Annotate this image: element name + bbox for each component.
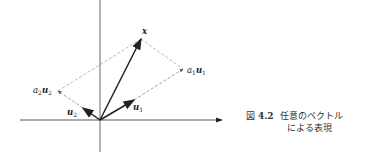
label-a2u2: a2u2 (33, 86, 52, 96)
caption-prefix: 図 (246, 111, 255, 121)
figure-caption: 図 4.2任意のベクトル による表現 (246, 110, 343, 134)
dashed-x-to-a1u1 (141, 39, 183, 69)
label-u1: u1 (133, 103, 143, 113)
label-x: x (142, 27, 147, 36)
label-a1u1: a1u1 (187, 66, 206, 76)
caption-line2: による表現 (246, 122, 343, 134)
label-u2: u2 (67, 108, 77, 118)
dashed-a1u1 (134, 69, 183, 100)
caption-line1: 任意のベクトル (280, 111, 343, 121)
dashed-a2u2 (58, 91, 83, 108)
vector-u2 (83, 108, 100, 120)
caption-number: 4.2 (258, 111, 274, 121)
vector-diagram (0, 0, 371, 162)
